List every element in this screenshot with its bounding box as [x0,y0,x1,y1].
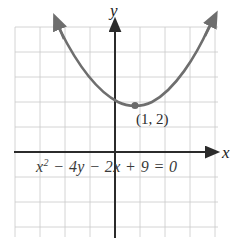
parabola-curve [60,27,209,106]
equation-remainder: − 4y − 2x + 9 = 0 [49,158,178,175]
coordinate-plane-svg [0,0,237,241]
y-axis-label: y [110,2,118,19]
graph-figure: y x (1, 2) x2 − 4y − 2x + 9 = 0 [0,0,237,241]
parabola-right-arrow [205,24,211,36]
vertex-point-label: (1, 2) [136,112,169,127]
equation-variable: x [36,158,44,175]
vertex-point-marker [131,102,138,109]
parabola-left-arrow [59,27,64,39]
x-axis-label: x [222,144,230,161]
grid-lines [15,27,218,237]
equation-label: x2 − 4y − 2x + 9 = 0 [36,159,178,175]
